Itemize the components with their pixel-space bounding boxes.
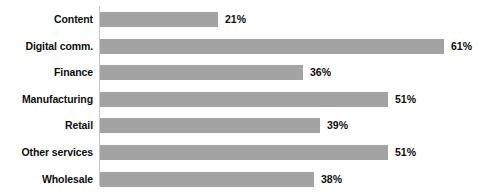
category-label: Content	[0, 6, 93, 33]
bar-row: Wholesale 38%	[0, 166, 494, 193]
category-label: Digital comm.	[0, 33, 93, 60]
category-label: Manufacturing	[0, 86, 93, 113]
horizontal-bar-chart: Content 21% Digital comm. 61% Finance 36…	[0, 0, 494, 195]
bar-row: Other services 51%	[0, 139, 494, 166]
bar-row: Digital comm. 61%	[0, 33, 494, 60]
category-label: Finance	[0, 59, 93, 86]
bar	[100, 118, 320, 133]
bar-value-label: 38%	[321, 166, 342, 193]
category-label: Other services	[0, 139, 93, 166]
category-label: Retail	[0, 112, 93, 139]
bar-row: Content 21%	[0, 6, 494, 33]
bar-row: Finance 36%	[0, 59, 494, 86]
bar-value-label: 61%	[451, 33, 472, 60]
bar-value-label: 36%	[310, 59, 331, 86]
bar-value-label: 51%	[395, 139, 416, 166]
bar	[100, 172, 314, 187]
bar-row: Retail 39%	[0, 112, 494, 139]
bar-value-label: 39%	[327, 112, 348, 139]
bar-value-label: 21%	[225, 6, 246, 33]
bar	[100, 92, 388, 107]
category-label: Wholesale	[0, 166, 93, 193]
bar	[100, 39, 444, 54]
bar-value-label: 51%	[395, 86, 416, 113]
bar	[100, 65, 303, 80]
bar	[100, 145, 388, 160]
bar	[100, 12, 218, 27]
bar-row: Manufacturing 51%	[0, 86, 494, 113]
